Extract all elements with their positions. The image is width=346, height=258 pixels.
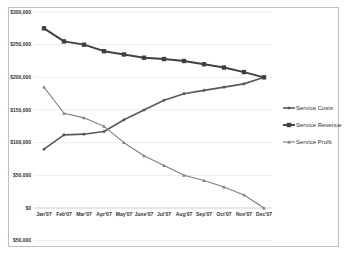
diamond-marker (182, 92, 186, 96)
y-tick-label: $0 (25, 205, 31, 211)
diamond-marker (287, 106, 291, 110)
x-tick-label: Mar'07 (76, 211, 92, 217)
square-marker (262, 75, 266, 79)
square-marker (82, 42, 86, 46)
x-tick-label: Sep'07 (196, 211, 212, 217)
square-marker (62, 39, 66, 43)
series-line (44, 28, 264, 77)
diamond-marker (222, 85, 226, 89)
legend-item-service-revenue: Service Revenue (283, 122, 342, 128)
x-tick-label: June'07 (135, 211, 154, 217)
triangle-marker (42, 85, 46, 88)
square-marker (202, 62, 206, 66)
legend-label: Service Revenue (296, 122, 342, 128)
x-tick-label: Feb'07 (56, 211, 72, 217)
y-tick-label: $50,000 (13, 237, 31, 243)
square-marker (222, 65, 226, 69)
square-marker (182, 59, 186, 63)
y-axis: $300,000$250,000$200,000$150,000$100,000… (10, 9, 31, 244)
x-tick-label: Dec'07 (256, 211, 272, 217)
square-marker (42, 26, 46, 30)
legend-label: Service Profit (296, 139, 332, 145)
series-service-costs (42, 76, 266, 151)
diamond-marker (82, 132, 86, 136)
x-tick-label: Aug'07 (176, 211, 193, 217)
y-tick-label: $300,000 (10, 9, 31, 15)
square-marker (102, 49, 106, 53)
x-tick-label: May'07 (116, 211, 133, 217)
diamond-marker (242, 82, 246, 86)
diamond-marker (202, 89, 206, 93)
square-marker (142, 56, 146, 60)
x-tick-label: Apr'07 (96, 211, 112, 217)
series-service-profit (42, 85, 266, 209)
series-service-revenue (42, 26, 266, 79)
y-tick-label: $50,000 (13, 172, 31, 178)
square-marker (242, 70, 246, 74)
x-tick-label: Nov'07 (236, 211, 252, 217)
square-marker (162, 57, 166, 61)
square-marker (122, 52, 126, 56)
series-lines (42, 26, 266, 209)
series-line (44, 77, 264, 149)
gridlines (34, 12, 272, 241)
x-axis: Jan'07Feb'07Mar'07Apr'07May'07June'07Jul… (34, 208, 272, 217)
y-tick-label: $100,000 (10, 139, 31, 145)
legend-label: Service Costs (296, 105, 333, 111)
y-tick-label: $200,000 (10, 74, 31, 80)
legend-item-service-costs: Service Costs (283, 105, 333, 111)
line-chart: $300,000$250,000$200,000$150,000$100,000… (0, 0, 346, 258)
x-tick-label: Jul'07 (157, 211, 171, 217)
x-tick-label: Oct'07 (216, 211, 231, 217)
legend: Service CostsService RevenueService Prof… (283, 105, 342, 145)
x-tick-label: Jan'07 (36, 211, 52, 217)
y-tick-label: $150,000 (10, 107, 31, 113)
square-marker (287, 123, 291, 127)
legend-item-service-profit: Service Profit (283, 139, 332, 145)
y-tick-label: $250,000 (10, 41, 31, 47)
